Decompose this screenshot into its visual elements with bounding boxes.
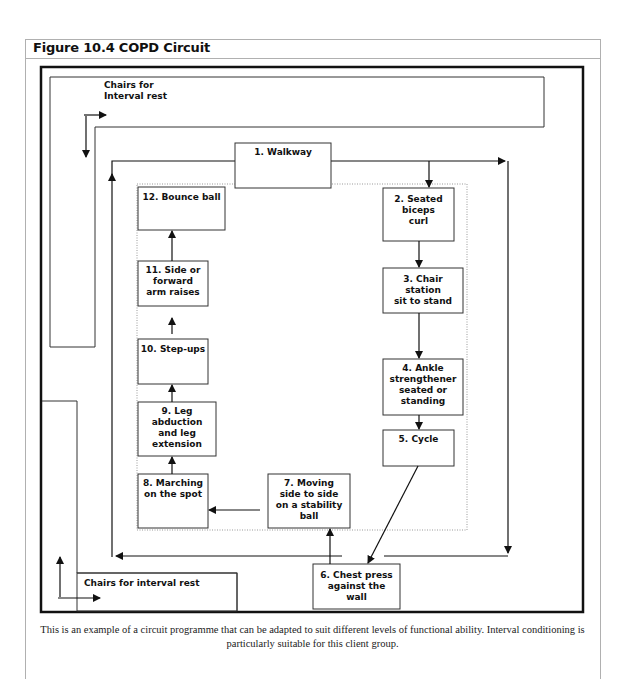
station-6-chest-press: 6. Chest press against the wall <box>313 570 400 603</box>
station-7-stability-ball: 7. Moving side to side on a stability ba… <box>268 478 350 522</box>
station-8-marching: 8. Marching on the spot <box>138 478 208 500</box>
station-2-seated-biceps-curl: 2. Seated biceps curl <box>383 194 454 227</box>
station-3-chair-sit-to-stand: 3. Chair station sit to stand <box>383 274 463 307</box>
rest-area-top-label: Chairs for Interval rest <box>104 80 167 102</box>
rest-area-bottom-label: Chairs for interval rest <box>84 578 199 589</box>
station-10-step-ups: 10. Step-ups <box>138 344 208 355</box>
station-5-cycle: 5. Cycle <box>383 434 454 445</box>
figure-caption: This is an example of a circuit programm… <box>35 623 590 651</box>
station-12-bounce-ball: 12. Bounce ball <box>138 192 225 203</box>
station-4-ankle-strengthener: 4. Ankle strengthener seated or standing <box>383 363 463 407</box>
station-1-walkway: 1. Walkway <box>235 147 331 158</box>
station-11-arm-raises: 11. Side or forward arm raises <box>138 265 208 298</box>
station-9-leg-abduction: 9. Leg abduction and leg extension <box>138 406 216 450</box>
rest-area-top <box>50 77 544 347</box>
